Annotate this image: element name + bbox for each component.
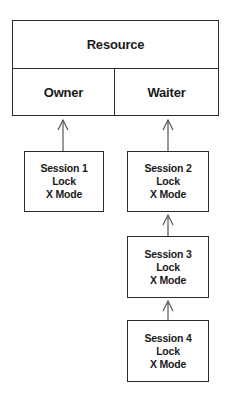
owner-cell: Owner (13, 69, 115, 115)
session-2-lock: Lock (156, 175, 180, 188)
resource-title: Resource (13, 21, 218, 69)
session-2-box: Session 2 Lock X Mode (127, 151, 209, 212)
session-1-box: Session 1 Lock X Mode (24, 151, 104, 212)
session-3-name: Session 3 (144, 248, 191, 261)
session-3-lock: Lock (156, 261, 180, 274)
session-4-box: Session 4 Lock X Mode (127, 320, 209, 382)
session-3-box: Session 3 Lock X Mode (127, 236, 209, 298)
session-4-mode: X Mode (150, 358, 186, 371)
resource-box: Resource Owner Waiter (12, 20, 219, 116)
arrow-session3-to-session2-icon (163, 215, 173, 236)
waiter-cell: Waiter (115, 69, 218, 115)
session-1-name: Session 1 (40, 162, 87, 175)
session-1-mode: X Mode (46, 188, 82, 201)
session-1-lock: Lock (52, 175, 76, 188)
session-2-mode: X Mode (150, 188, 186, 201)
session-4-name: Session 4 (144, 332, 191, 345)
session-4-lock: Lock (156, 345, 180, 358)
arrow-session2-to-waiter-icon (163, 120, 173, 151)
session-3-mode: X Mode (150, 274, 186, 287)
arrow-session4-to-session3-icon (163, 301, 173, 320)
session-2-name: Session 2 (144, 162, 191, 175)
arrow-session1-to-owner-icon (58, 120, 68, 151)
